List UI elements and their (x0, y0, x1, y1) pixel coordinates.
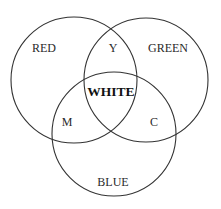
magenta-intersection-label: M (62, 115, 73, 129)
green-label: GREEN (148, 41, 188, 55)
red-circle (11, 17, 137, 143)
green-circle (84, 18, 208, 142)
venn-diagram: RED GREEN BLUE Y WHITE M C (0, 0, 221, 209)
cyan-intersection-label: C (150, 115, 158, 129)
yellow-intersection-label: Y (109, 41, 118, 55)
red-label: RED (32, 41, 56, 55)
blue-label: BLUE (97, 175, 128, 189)
white-intersection-label: WHITE (87, 84, 134, 99)
